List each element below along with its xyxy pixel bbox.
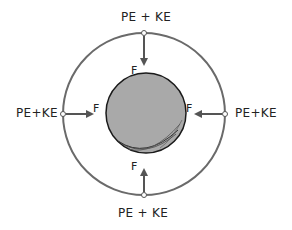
force-label-top: F bbox=[131, 64, 137, 77]
position-dot-right bbox=[223, 112, 228, 117]
force-label-right: F bbox=[186, 102, 192, 115]
force-label-bottom: F bbox=[131, 160, 137, 173]
energy-label-top: PE + KE bbox=[121, 10, 171, 24]
energy-label-left: PE+KE bbox=[16, 106, 58, 120]
position-dot-left bbox=[61, 112, 66, 117]
force-label-left: F bbox=[93, 102, 99, 115]
planet bbox=[106, 73, 186, 153]
energy-label-bottom: PE + KE bbox=[118, 206, 168, 220]
position-dot-bottom bbox=[142, 193, 147, 198]
energy-label-right: PE+KE bbox=[235, 106, 277, 120]
position-dot-top bbox=[142, 31, 147, 36]
